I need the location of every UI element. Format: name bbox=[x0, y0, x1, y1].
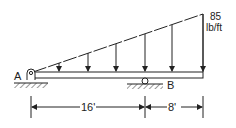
load-unit-label: lb/ft bbox=[206, 22, 222, 33]
dimension-label-ab: 16' bbox=[81, 101, 95, 113]
dimension-label-b-end: 8' bbox=[168, 101, 176, 113]
dimension-lines bbox=[31, 96, 203, 118]
support-a-label: A bbox=[14, 70, 22, 82]
distributed-load bbox=[33, 14, 203, 72]
beam-diagram: A B 85 lb/ft 16' 8' bbox=[0, 0, 236, 128]
load-value-label: 85 bbox=[210, 11, 222, 22]
support-b-label: B bbox=[167, 79, 174, 91]
roller-support-b bbox=[127, 78, 163, 89]
beam bbox=[32, 72, 203, 78]
